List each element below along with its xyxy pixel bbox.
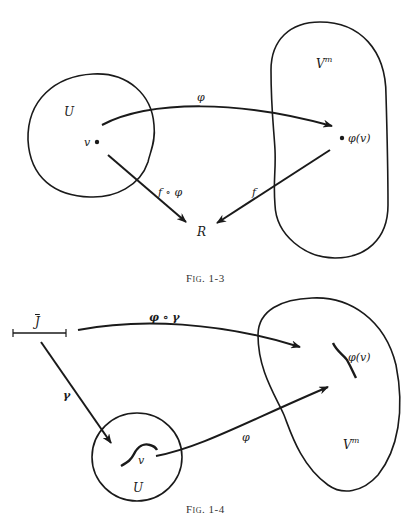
label-image-point: φ(v) — [348, 133, 371, 144]
label-point-v-2: v — [138, 455, 144, 466]
point-v-dot — [95, 140, 99, 144]
label-map-phi: φ — [197, 92, 205, 103]
label-point-v: v — [84, 137, 90, 148]
label-target-space: Vm — [316, 56, 332, 70]
arrow-phi-compose-gamma — [78, 323, 300, 347]
label-map-phi-2: φ — [242, 432, 250, 443]
label-composite-f-phi: f ∘ φ — [158, 187, 182, 198]
label-image-point-2: φ(v) — [348, 352, 371, 363]
arrow-f — [217, 150, 330, 223]
caption-fig-1-3: Fig. 1-3 — [186, 272, 225, 284]
figure-1-4 — [13, 298, 400, 501]
point-phi-v-dot — [340, 136, 344, 140]
figure-1-3 — [28, 22, 388, 258]
label-target-space-exponent: m — [325, 55, 333, 64]
label-domain-u-2: U — [133, 482, 143, 494]
label-composite-phi-gamma: φ ∘ γ — [149, 312, 180, 323]
label-map-gamma: γ — [63, 390, 70, 401]
label-target-space-base: V — [316, 57, 325, 71]
label-map-f: f — [252, 187, 256, 198]
label-interval-j: J — [35, 316, 40, 328]
arrow-gamma — [41, 342, 111, 443]
label-domain-u: U — [64, 106, 74, 118]
label-target-space-2-exponent: m — [352, 436, 360, 445]
label-reals-r: R — [197, 226, 206, 238]
arrow-phi — [102, 106, 332, 126]
target-space-region-2 — [258, 298, 400, 491]
caption-fig-1-4: Fig. 1-4 — [186, 503, 225, 515]
arrow-phi-2 — [156, 387, 328, 456]
label-target-space-2: Vm — [343, 437, 359, 451]
label-target-space-2-base: V — [343, 438, 352, 452]
